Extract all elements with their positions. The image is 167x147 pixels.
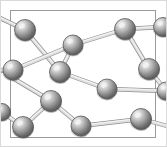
lattice-diagram (0, 0, 167, 147)
atom-8 (97, 79, 118, 100)
atom-2 (63, 35, 84, 56)
atom-13 (131, 109, 153, 131)
atom-3 (115, 19, 137, 41)
atom-6 (50, 62, 72, 84)
atom-11 (13, 117, 35, 139)
atom-5 (3, 60, 24, 81)
atom-10 (41, 91, 63, 113)
atom-12 (71, 116, 92, 137)
atom-7 (139, 59, 161, 81)
atom-1 (15, 20, 37, 42)
figure-canvas (0, 0, 167, 147)
